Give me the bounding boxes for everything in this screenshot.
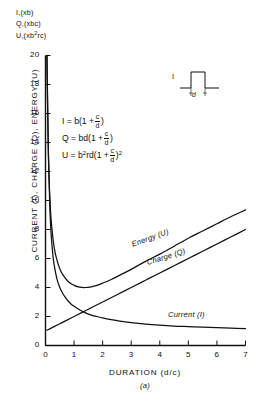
equation-energy: U = b2rd(1 + c d )2	[62, 147, 122, 164]
x-tick-label: 2	[94, 350, 112, 359]
pulse-waveform-icon	[172, 66, 234, 106]
y-tick-label: 18	[14, 79, 40, 88]
y-tick-label: 8	[14, 224, 40, 233]
y-tick-label: 16	[14, 108, 40, 117]
pulse-waveform-inset: I d	[172, 66, 234, 106]
y-tick-label: 14	[14, 137, 40, 146]
panel-caption: (a)	[44, 381, 246, 390]
x-tick-label: 0	[37, 350, 55, 359]
inset-duration-label: d	[192, 91, 196, 98]
y-tick-label: 4	[14, 282, 40, 291]
x-axis-title: DURATION (d/c)	[44, 368, 246, 377]
x-tick-label: 7	[237, 350, 255, 359]
unit-annotation-current: I,(xb)	[16, 7, 46, 18]
fraction-c-over-d: c d	[104, 130, 110, 146]
x-tick-label: 1	[65, 350, 83, 359]
x-tick-label: 4	[151, 350, 169, 359]
y-axis-title: CURRENT (I), CHARGE (Q), ENERGY (U)	[30, 31, 39, 291]
figure-panel: I,(xb) Q,(xbc) U,(xb2rc) CURRENT (I), CH…	[0, 0, 264, 395]
y-tick-label: 12	[14, 166, 40, 175]
x-tick-label: 3	[122, 350, 140, 359]
x-tick-label: 5	[179, 350, 197, 359]
x-tick-label: 6	[208, 350, 226, 359]
y-tick-label: 0	[14, 340, 40, 349]
y-tick-label: 2	[14, 311, 40, 320]
fraction-c-over-d: c d	[109, 147, 115, 163]
equation-current: I = b(1 + c d )	[62, 113, 122, 130]
y-tick-label: 20	[14, 50, 40, 59]
equation-charge: Q = bd(1 + c d )	[62, 130, 122, 147]
y-tick-label: 10	[14, 195, 40, 204]
inset-current-label: I	[172, 72, 174, 81]
curve-charge-q	[47, 230, 246, 331]
curve-label-current: Current (I)	[168, 310, 205, 319]
unit-annotation-charge: Q,(xbc)	[16, 18, 46, 29]
equation-block: I = b(1 + c d ) Q = bd(1 + c d ) U = b2r…	[62, 113, 122, 164]
fraction-c-over-d: c d	[95, 113, 101, 129]
y-tick-label: 6	[14, 253, 40, 262]
